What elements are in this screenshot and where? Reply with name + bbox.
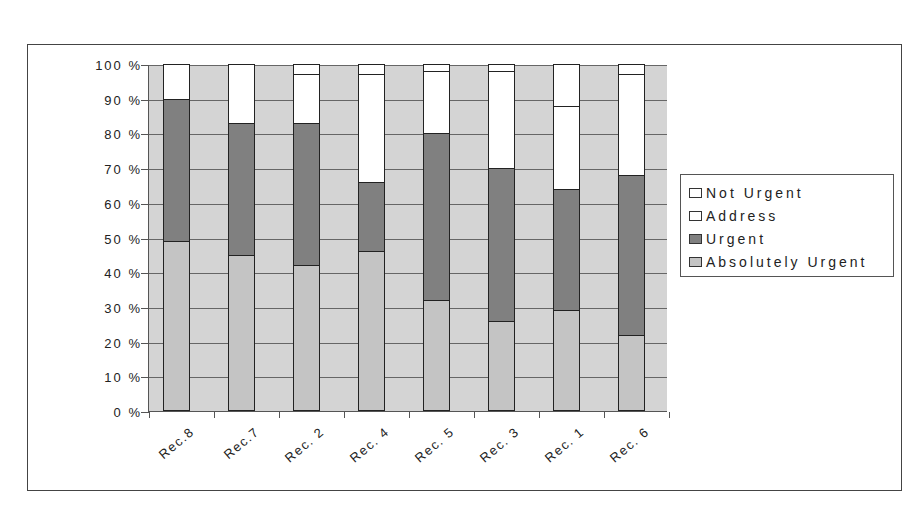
- y-tick: [141, 204, 149, 205]
- gridline: [149, 239, 667, 240]
- bar-rec3: [488, 64, 515, 411]
- gridline: [149, 65, 667, 66]
- x-tick: [539, 412, 540, 418]
- legend-swatch-address: [689, 211, 702, 221]
- legend-item-urgent: Urgent: [689, 227, 893, 250]
- x-tick: [344, 412, 345, 418]
- bar-segment-address: [358, 74, 385, 182]
- bar-rec4: [358, 64, 385, 411]
- bar-segment-absolutely-urgent: [618, 335, 645, 411]
- gridline: [149, 134, 667, 135]
- bar-segment-absolutely-urgent: [553, 310, 580, 411]
- bar-segment-address: [423, 71, 450, 133]
- legend: Not Urgent Address Urgent Absolutely Urg…: [680, 174, 894, 277]
- bar-segment-address: [553, 106, 580, 189]
- bar-segment-absolutely-urgent: [228, 255, 255, 411]
- bar-segment-urgent: [228, 123, 255, 255]
- legend-label: Absolutely Urgent: [706, 254, 868, 270]
- bar-segment-not-urgent: [163, 64, 190, 99]
- bar-segment-urgent: [618, 175, 645, 335]
- bar-segment-not-urgent: [423, 64, 450, 71]
- y-tick-label: 60 %: [104, 196, 142, 211]
- bar-rec1: [553, 64, 580, 411]
- bar-segment-absolutely-urgent: [163, 241, 190, 411]
- y-tick-label: 30 %: [104, 300, 142, 315]
- x-tick: [409, 412, 410, 418]
- bar-segment-absolutely-urgent: [293, 265, 320, 411]
- y-tick: [141, 308, 149, 309]
- legend-item-absolutely-urgent: Absolutely Urgent: [689, 250, 893, 273]
- legend-item-address: Address: [689, 204, 893, 227]
- gridline: [149, 169, 667, 170]
- bar-segment-not-urgent: [553, 64, 580, 106]
- legend-swatch-urgent: [689, 234, 702, 244]
- y-tick-label: 10 %: [104, 370, 142, 385]
- plot-area: [148, 65, 667, 412]
- legend-swatch-absolutely-urgent: [689, 257, 702, 267]
- x-tick: [669, 412, 670, 418]
- x-tick: [214, 412, 215, 418]
- gridline: [149, 100, 667, 101]
- y-tick-label: 80 %: [104, 127, 142, 142]
- bar-segment-not-urgent: [618, 64, 645, 74]
- gridline: [149, 377, 667, 378]
- y-tick: [141, 169, 149, 170]
- bar-segment-not-urgent: [488, 64, 515, 71]
- bar-segment-urgent: [293, 123, 320, 265]
- y-tick-label: 50 %: [104, 231, 142, 246]
- bar-segment-address: [488, 71, 515, 168]
- gridline: [149, 308, 667, 309]
- bar-segment-not-urgent: [293, 64, 320, 74]
- bar-segment-address: [618, 74, 645, 175]
- legend-label: Not Urgent: [706, 185, 804, 201]
- gridline: [149, 343, 667, 344]
- y-tick: [141, 377, 149, 378]
- y-tick: [141, 65, 149, 66]
- x-tick: [149, 412, 150, 418]
- y-tick: [141, 134, 149, 135]
- bar-segment-urgent: [553, 189, 580, 310]
- bar-segment-address: [293, 74, 320, 123]
- x-tick: [474, 412, 475, 418]
- y-tick-label: 100 %: [95, 58, 142, 73]
- legend-swatch-not-urgent: [689, 188, 702, 198]
- y-tick: [141, 412, 149, 413]
- bar-segment-urgent: [488, 168, 515, 321]
- y-tick: [141, 239, 149, 240]
- y-tick: [141, 100, 149, 101]
- legend-label: Address: [706, 208, 778, 224]
- y-tick-label: 0 %: [114, 405, 142, 420]
- y-tick-label: 40 %: [104, 266, 142, 281]
- bar-segment-absolutely-urgent: [423, 300, 450, 411]
- legend-label: Urgent: [706, 231, 766, 247]
- x-tick: [279, 412, 280, 418]
- bar-segment-absolutely-urgent: [488, 321, 515, 411]
- bar-segment-not-urgent: [228, 64, 255, 123]
- y-tick: [141, 273, 149, 274]
- bar-rec5: [423, 64, 450, 411]
- bar-rec7: [228, 64, 255, 411]
- gridline: [149, 204, 667, 205]
- bar-segment-urgent: [163, 99, 190, 241]
- bar-segment-absolutely-urgent: [358, 251, 385, 411]
- legend-item-not-urgent: Not Urgent: [689, 181, 893, 204]
- bar-rec2: [293, 64, 320, 411]
- y-tick-label: 20 %: [104, 335, 142, 350]
- bar-rec6: [618, 64, 645, 411]
- y-tick-label: 70 %: [104, 162, 142, 177]
- bar-segment-not-urgent: [358, 64, 385, 74]
- bar-rec8: [163, 64, 190, 411]
- y-tick: [141, 343, 149, 344]
- bar-segment-urgent: [423, 133, 450, 300]
- bar-segment-urgent: [358, 182, 385, 251]
- y-tick-label: 90 %: [104, 92, 142, 107]
- gridline: [149, 273, 667, 274]
- x-tick: [604, 412, 605, 418]
